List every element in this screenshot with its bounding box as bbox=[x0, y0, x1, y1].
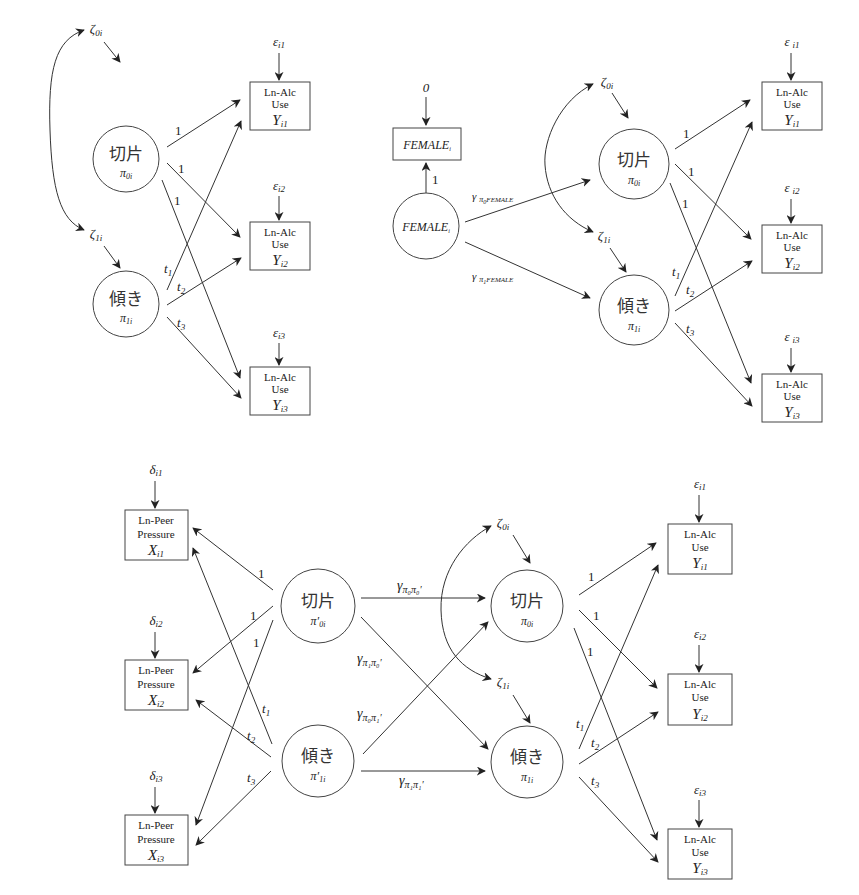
svg-text:傾き: 傾き bbox=[510, 747, 544, 767]
loading-label: 1 bbox=[250, 608, 257, 623]
latent-slope: 傾き π1i bbox=[599, 275, 669, 345]
disturbance-arrow bbox=[610, 248, 626, 272]
loading-label: t1 bbox=[262, 701, 270, 718]
svg-text:Ln-Alc: Ln-Alc bbox=[776, 378, 808, 390]
svg-text:切片: 切片 bbox=[510, 591, 544, 611]
error-label: εi2 bbox=[694, 626, 707, 642]
svg-text:Ln-Alc: Ln-Alc bbox=[684, 833, 716, 845]
covariance-arc bbox=[441, 526, 491, 679]
loading-path bbox=[574, 628, 657, 840]
svg-text:FEMALEi: FEMALEi bbox=[402, 138, 451, 152]
loading-label: 1 bbox=[258, 566, 265, 581]
sem-diagram: ζ0i ζ1i 切片 π0i 傾き π1i Ln-Alc Use Yi1 Ln-… bbox=[0, 0, 859, 895]
latent-x-slope: 傾き π′1i bbox=[282, 725, 354, 797]
svg-text:Use: Use bbox=[783, 390, 800, 402]
observed-y3: Ln-Alc Use Yi3 bbox=[250, 367, 310, 415]
svg-text:傾き: 傾き bbox=[617, 296, 651, 316]
error-label: εi2 bbox=[784, 180, 800, 196]
latent-slope: 傾き π1i bbox=[491, 726, 563, 798]
observed-y2: Ln-Alc Use Yi2 bbox=[668, 674, 732, 725]
error-label: εi3 bbox=[273, 325, 286, 341]
covariance-arc bbox=[50, 30, 84, 230]
loading-label: t2 bbox=[247, 728, 256, 745]
panel-unconditional: ζ0i ζ1i 切片 π0i 傾き π1i Ln-Alc Use Yi1 Ln-… bbox=[50, 21, 310, 415]
loading-path bbox=[196, 700, 271, 757]
error-label: εi1 bbox=[273, 34, 285, 50]
svg-text:Use: Use bbox=[271, 238, 288, 250]
observed-x2: Ln-Peer Pressure Xi2 bbox=[125, 660, 188, 710]
svg-text:Ln-Alc: Ln-Alc bbox=[264, 226, 296, 238]
observed-y3: Ln-Alc Use Yi3 bbox=[668, 829, 732, 879]
loading-label: t1 bbox=[164, 261, 172, 278]
gamma-path bbox=[465, 242, 590, 298]
covariance-arc bbox=[545, 84, 593, 232]
svg-text:Use: Use bbox=[271, 98, 288, 110]
latent-intercept: 切片 π0i bbox=[599, 129, 669, 199]
loading-label: 1 bbox=[588, 569, 595, 584]
disturbance-arrow bbox=[104, 246, 120, 268]
svg-text:Use: Use bbox=[691, 541, 708, 553]
svg-text:傾き: 傾き bbox=[301, 746, 335, 766]
svg-text:Ln-Peer: Ln-Peer bbox=[138, 514, 174, 526]
observed-y1: Ln-Alc Use Yi1 bbox=[762, 82, 822, 130]
disturbance-arrow bbox=[513, 535, 530, 563]
disturbance-arrow bbox=[104, 42, 120, 62]
svg-text:FEMALEi: FEMALEi bbox=[401, 220, 450, 234]
loading-label: t2 bbox=[591, 735, 600, 752]
observed-y2: Ln-Alc Use Yi2 bbox=[762, 225, 822, 273]
svg-text:Use: Use bbox=[271, 383, 288, 395]
observed-y3: Ln-Alc Use Yi3 bbox=[762, 374, 822, 422]
loading-label: t2 bbox=[686, 282, 695, 299]
gamma-label: γπ1FEMALE bbox=[472, 270, 514, 285]
svg-text:Use: Use bbox=[691, 846, 708, 858]
loading-label: 1 bbox=[174, 193, 181, 208]
loading-path bbox=[196, 771, 271, 845]
disturbance-label: ζ1i bbox=[598, 228, 611, 245]
structural-path bbox=[363, 622, 488, 754]
error-label: δi1 bbox=[149, 462, 162, 478]
loading-label: t3 bbox=[686, 321, 695, 338]
svg-text:Ln-Alc: Ln-Alc bbox=[264, 86, 296, 98]
observed-female: FEMALEi bbox=[393, 128, 461, 160]
loading-label: t3 bbox=[591, 773, 600, 790]
svg-text:切片: 切片 bbox=[109, 144, 143, 164]
svg-text:Use: Use bbox=[691, 691, 708, 703]
observed-y1: Ln-Alc Use Yi1 bbox=[250, 82, 310, 130]
loading-label: t3 bbox=[247, 770, 256, 787]
error-label: εi2 bbox=[273, 178, 286, 194]
predictor-loading-label: 1 bbox=[432, 172, 439, 187]
svg-text:切片: 切片 bbox=[301, 591, 335, 611]
error-label: εi3 bbox=[694, 782, 707, 798]
svg-text:Ln-Alc: Ln-Alc bbox=[264, 371, 296, 383]
error-label: εi3 bbox=[784, 329, 800, 345]
svg-text:Ln-Alc: Ln-Alc bbox=[684, 528, 716, 540]
observed-x1: Ln-Peer Pressure Xi1 bbox=[125, 510, 188, 560]
loading-path bbox=[675, 100, 750, 149]
svg-text:傾き: 傾き bbox=[109, 289, 143, 309]
loading-label: t3 bbox=[177, 315, 186, 332]
svg-text:Ln-Alc: Ln-Alc bbox=[776, 86, 808, 98]
loading-label: 1 bbox=[175, 123, 182, 138]
svg-text:切片: 切片 bbox=[617, 150, 651, 170]
svg-text:Ln-Peer: Ln-Peer bbox=[138, 664, 174, 676]
svg-text:Use: Use bbox=[783, 241, 800, 253]
svg-text:Ln-Alc: Ln-Alc bbox=[776, 229, 808, 241]
disturbance-label: ζ1i bbox=[497, 674, 510, 691]
loading-label: 1 bbox=[587, 644, 594, 659]
observed-y2: Ln-Alc Use Yi2 bbox=[250, 222, 310, 270]
latent-x-intercept: 切片 π′0i bbox=[281, 569, 355, 643]
error-label: δi2 bbox=[149, 613, 163, 629]
observed-x3: Ln-Peer Pressure Xi3 bbox=[125, 815, 188, 865]
loading-label: t1 bbox=[672, 264, 680, 281]
fixed-error-label: 0 bbox=[423, 80, 430, 95]
loading-label: 1 bbox=[683, 126, 690, 141]
loading-path bbox=[162, 180, 240, 378]
svg-text:Ln-Alc: Ln-Alc bbox=[684, 678, 716, 690]
loading-label: t2 bbox=[177, 279, 186, 296]
svg-text:Pressure: Pressure bbox=[137, 528, 174, 540]
svg-text:Use: Use bbox=[783, 98, 800, 110]
svg-text:Ln-Peer: Ln-Peer bbox=[138, 819, 174, 831]
latent-female: FEMALEi bbox=[393, 193, 459, 259]
disturbance-label: ζ0i bbox=[601, 74, 614, 91]
error-label: εi1 bbox=[694, 476, 706, 492]
